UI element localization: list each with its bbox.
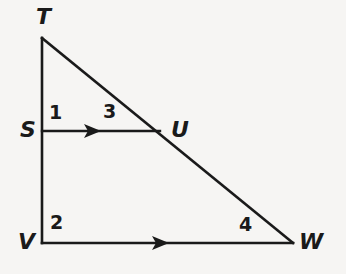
angle-label-3: 3 — [103, 102, 116, 121]
vertex-label-W: W — [299, 231, 323, 253]
vertex-label-T: T — [36, 6, 51, 28]
segment-TW — [42, 38, 293, 243]
vertex-label-U: U — [171, 119, 189, 141]
angle-label-2: 2 — [50, 213, 63, 232]
vertex-label-V: V — [18, 231, 35, 253]
angle-label-1: 1 — [49, 103, 62, 122]
vertex-label-S: S — [20, 119, 36, 141]
geometry-figure: T S U V W 1 3 2 4 — [0, 0, 346, 274]
triangle-outline — [42, 38, 293, 243]
angle-label-4: 4 — [239, 215, 252, 234]
